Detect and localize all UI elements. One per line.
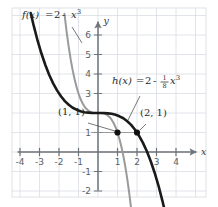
graph-figure: -4-3-2-11234-2-113456xyf(x)=2-x3h(x)=2-1… — [0, 0, 218, 207]
point-1-1-label: (1, 1) — [58, 106, 85, 117]
h-label-fraction-numerator: 1 — [162, 74, 166, 82]
h-label-fn: h(x) — [112, 75, 132, 86]
h-label-minus: - — [153, 75, 156, 86]
f-label-exponent: 3 — [77, 8, 81, 16]
data-point-1 — [114, 129, 120, 135]
y-tick-label: 5 — [85, 50, 91, 60]
h-label-exponent: 3 — [176, 74, 180, 82]
y-tick-label: 4 — [85, 69, 91, 79]
h-label-two: 2 — [145, 75, 151, 86]
x-tick-label: -4 — [16, 157, 25, 167]
f-label-equals: = — [45, 9, 53, 20]
figure-background — [0, 0, 218, 207]
x-tick-label: 2 — [134, 157, 140, 167]
f-label: f(x)=2-x3 — [21, 8, 81, 21]
f-label-two: 2 — [54, 9, 60, 20]
x-axis-name-label: x — [201, 146, 207, 157]
y-tick-label: 6 — [85, 30, 91, 40]
h-label-fraction-denominator: 8 — [162, 82, 166, 90]
y-tick-label: -1 — [82, 167, 91, 177]
x-tick-label: -1 — [74, 157, 83, 167]
y-tick-label: 3 — [85, 89, 91, 99]
x-tick-label: -2 — [55, 157, 64, 167]
y-tick-label: 1 — [85, 128, 91, 138]
y-tick-label: -2 — [82, 186, 91, 196]
data-point-2 — [134, 129, 140, 135]
h-label-equals: = — [136, 75, 144, 86]
x-tick-label: 1 — [115, 157, 121, 167]
x-tick-label: 3 — [154, 157, 160, 167]
x-tick-label: -3 — [35, 157, 44, 167]
y-axis-name-label: y — [103, 15, 110, 26]
f-label-minus: - — [62, 9, 65, 20]
cubic-transformation-plot: -4-3-2-11234-2-113456xyf(x)=2-x3h(x)=2-1… — [0, 0, 218, 207]
point-2-1-label: (2, 1) — [140, 107, 167, 118]
f-label-fn: f(x) — [21, 9, 39, 20]
x-tick-label: 4 — [173, 157, 179, 167]
